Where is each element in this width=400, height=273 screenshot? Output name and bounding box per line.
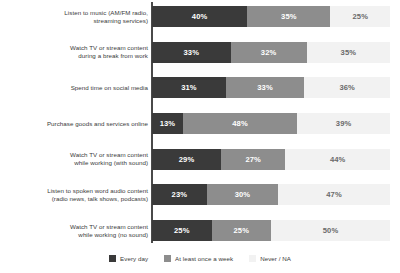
bar-segment: 23% — [152, 184, 207, 205]
category-label-line: Purchase goods and services online — [4, 119, 148, 127]
category-label-line: Watch TV or stream content — [4, 222, 148, 230]
bar-value-label: 23% — [172, 190, 188, 199]
category-label-line: Listen to music (AM/FM radio, — [4, 8, 148, 16]
bar-segment: 25% — [152, 220, 212, 241]
chart-legend: Every dayAt least once a weekNever / NA — [0, 250, 400, 266]
chart-row: Listen to spoken word audio content(radi… — [0, 184, 400, 205]
chart-row: Purchase goods and services online13%48%… — [0, 113, 400, 134]
legend-item[interactable]: Every day — [109, 255, 148, 262]
bar-segment: 35% — [247, 6, 330, 27]
chart-row: Listen to music (AM/FM radio,streaming s… — [0, 6, 400, 27]
category-label-line: while working (no sound) — [4, 231, 148, 239]
bar-segment: 47% — [278, 184, 390, 205]
legend-label: Never / NA — [260, 255, 291, 262]
category-label-line: streaming services) — [4, 17, 148, 25]
plot-area: Listen to music (AM/FM radio,streaming s… — [0, 0, 400, 245]
bar-value-label: 13% — [160, 119, 176, 128]
bar-segment: 44% — [285, 149, 390, 170]
bar-segment: 33% — [152, 42, 231, 63]
chart-row: Watch TV or stream contentwhile working … — [0, 149, 400, 170]
bar-value-label: 50% — [323, 226, 339, 235]
bar-segment: 36% — [304, 77, 390, 98]
legend-swatch-icon — [164, 255, 171, 262]
bar-segment: 25% — [212, 220, 272, 241]
bar-value-label: 27% — [245, 155, 261, 164]
stacked-bar-chart: Listen to music (AM/FM radio,streaming s… — [0, 0, 400, 273]
bar-track: 13%48%39% — [152, 113, 390, 134]
bar-value-label: 31% — [181, 83, 197, 92]
legend-swatch-icon — [109, 255, 116, 262]
bar-track: 25%25%50% — [152, 220, 390, 241]
category-label: Watch TV or stream contentduring a break… — [4, 44, 148, 60]
bar-value-label: 25% — [234, 226, 250, 235]
bar-segment: 27% — [221, 149, 285, 170]
category-label: Listen to music (AM/FM radio,streaming s… — [4, 8, 148, 24]
category-label: Watch TV or stream contentwhile working … — [4, 222, 148, 238]
bar-segment: 48% — [183, 113, 297, 134]
bar-track: 40%35%25% — [152, 6, 390, 27]
chart-row: Spend time on social media31%33%36% — [0, 77, 400, 98]
bar-value-label: 25% — [174, 226, 190, 235]
category-label-line: Spend time on social media — [4, 84, 148, 92]
bar-segment: 39% — [297, 113, 390, 134]
bar-segment: 50% — [271, 220, 390, 241]
bar-value-label: 47% — [326, 190, 342, 199]
legend-label: Every day — [120, 255, 148, 262]
bar-value-label: 44% — [330, 155, 346, 164]
category-label-line: Watch TV or stream content — [4, 44, 148, 52]
category-label: Watch TV or stream contentwhile working … — [4, 151, 148, 167]
chart-row: Watch TV or stream contentwhile working … — [0, 220, 400, 241]
bar-segment: 25% — [330, 6, 390, 27]
bar-value-label: 32% — [261, 48, 277, 57]
bar-value-label: 29% — [179, 155, 195, 164]
bar-segment: 32% — [231, 42, 307, 63]
category-label-line: (radio news, talk shows, podcasts) — [4, 195, 148, 203]
category-label: Spend time on social media — [4, 84, 148, 92]
bar-value-label: 33% — [257, 83, 273, 92]
bar-track: 33%32%35% — [152, 42, 390, 63]
bar-track: 29%27%44% — [152, 149, 390, 170]
bar-value-label: 36% — [339, 83, 355, 92]
category-label-line: Listen to spoken word audio content — [4, 187, 148, 195]
bar-track: 23%30%47% — [152, 184, 390, 205]
bar-segment: 35% — [307, 42, 390, 63]
bar-value-label: 48% — [232, 119, 248, 128]
bar-segment: 31% — [152, 77, 226, 98]
bar-value-label: 35% — [281, 12, 297, 21]
category-label: Purchase goods and services online — [4, 119, 148, 127]
chart-row: Watch TV or stream contentduring a break… — [0, 42, 400, 63]
bar-segment: 13% — [152, 113, 183, 134]
bar-value-label: 25% — [352, 12, 368, 21]
legend-item[interactable]: Never / NA — [249, 255, 291, 262]
bar-segment: 30% — [207, 184, 278, 205]
bar-segment: 33% — [226, 77, 305, 98]
legend-swatch-icon — [249, 255, 256, 262]
bar-value-label: 40% — [192, 12, 208, 21]
category-label-line: while working (with sound) — [4, 159, 148, 167]
category-label-line: during a break from work — [4, 52, 148, 60]
category-label-line: Watch TV or stream content — [4, 151, 148, 159]
legend-label: At least once a week — [175, 255, 233, 262]
bar-value-label: 33% — [184, 48, 200, 57]
bar-segment: 29% — [152, 149, 221, 170]
legend-item[interactable]: At least once a week — [164, 255, 233, 262]
bar-value-label: 39% — [336, 119, 352, 128]
bar-segment: 40% — [152, 6, 247, 27]
bar-value-label: 30% — [235, 190, 251, 199]
bar-value-label: 35% — [341, 48, 357, 57]
bar-track: 31%33%36% — [152, 77, 390, 98]
category-label: Listen to spoken word audio content(radi… — [4, 187, 148, 203]
